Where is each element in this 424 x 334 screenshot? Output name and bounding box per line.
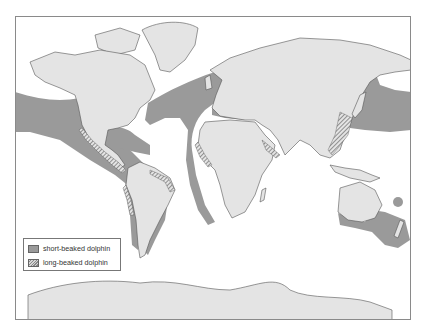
legend-item-short-beaked: short-beaked dolphin [28, 242, 116, 255]
hatched-swatch-icon [28, 259, 39, 267]
legend-label: short-beaked dolphin [43, 244, 110, 253]
solid-swatch-icon [28, 245, 39, 253]
legend-item-long-beaked: long-beaked dolphin [28, 256, 116, 269]
legend-label: long-beaked dolphin [43, 258, 108, 267]
map-legend: short-beaked dolphin long-beaked dolphin [23, 238, 121, 271]
map-frame [15, 16, 411, 320]
